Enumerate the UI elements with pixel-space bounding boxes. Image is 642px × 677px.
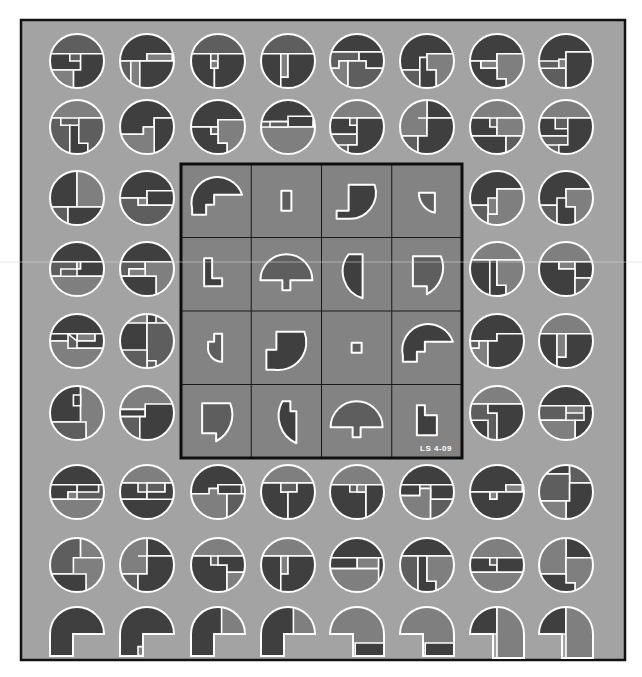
circle-tile[interactable] bbox=[50, 538, 104, 592]
circle-tile[interactable] bbox=[539, 34, 593, 88]
puzzle-board bbox=[0, 0, 642, 677]
circle-tile[interactable] bbox=[539, 538, 593, 592]
circle-tile[interactable] bbox=[400, 34, 454, 88]
circle-tile[interactable] bbox=[539, 100, 593, 154]
circle-tile[interactable] bbox=[50, 465, 104, 519]
circle-tile[interactable] bbox=[120, 386, 174, 440]
circle-tile[interactable] bbox=[50, 242, 104, 296]
answer-grid bbox=[181, 164, 462, 458]
circle-tile[interactable] bbox=[539, 465, 593, 519]
circle-tile[interactable] bbox=[470, 100, 524, 154]
circle-tile[interactable] bbox=[50, 314, 104, 368]
circle-tile[interactable] bbox=[539, 171, 593, 225]
circle-tile[interactable] bbox=[50, 386, 104, 440]
circle-tile[interactable] bbox=[261, 538, 315, 592]
circle-tile[interactable] bbox=[470, 386, 524, 440]
puzzle-code-label: LS 4-09 bbox=[420, 444, 452, 453]
circle-tile[interactable] bbox=[400, 100, 454, 154]
circle-tile[interactable] bbox=[330, 465, 384, 519]
circle-tile[interactable] bbox=[261, 34, 315, 88]
circle-tile[interactable] bbox=[120, 538, 174, 592]
circle-tile[interactable] bbox=[470, 465, 524, 519]
circle-tile[interactable] bbox=[330, 34, 384, 88]
circle-tile[interactable] bbox=[191, 538, 245, 592]
circle-tile[interactable] bbox=[50, 100, 104, 154]
circle-tile[interactable] bbox=[330, 538, 384, 592]
circle-tile[interactable] bbox=[400, 465, 454, 519]
circle-tile[interactable] bbox=[261, 100, 315, 154]
circle-tile[interactable] bbox=[539, 242, 593, 296]
circle-tile[interactable] bbox=[191, 34, 245, 88]
circle-tile[interactable] bbox=[470, 171, 524, 225]
circle-tile[interactable] bbox=[330, 100, 384, 154]
circle-tile[interactable] bbox=[191, 100, 245, 154]
circle-tile[interactable] bbox=[120, 465, 174, 519]
circle-tile[interactable] bbox=[120, 171, 174, 225]
circle-tile[interactable] bbox=[50, 171, 104, 225]
answer-shape-tiny-square[interactable] bbox=[352, 343, 362, 353]
circle-tile[interactable] bbox=[539, 314, 593, 368]
circle-tile[interactable] bbox=[470, 242, 524, 296]
circle-tile[interactable] bbox=[470, 314, 524, 368]
circle-tile[interactable] bbox=[539, 386, 593, 440]
circle-tile[interactable] bbox=[191, 465, 245, 519]
circle-tile[interactable] bbox=[400, 538, 454, 592]
circle-tile[interactable] bbox=[470, 538, 524, 592]
circle-tile[interactable] bbox=[120, 314, 174, 368]
circle-tile[interactable] bbox=[120, 34, 174, 88]
circle-tile[interactable] bbox=[120, 100, 174, 154]
circle-tile[interactable] bbox=[50, 34, 104, 88]
circle-tile[interactable] bbox=[120, 242, 174, 296]
answer-shape-small-rectangle[interactable] bbox=[281, 191, 291, 211]
circle-tile[interactable] bbox=[470, 34, 524, 88]
circle-tile[interactable] bbox=[261, 465, 315, 519]
